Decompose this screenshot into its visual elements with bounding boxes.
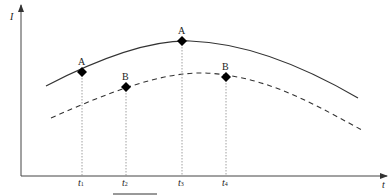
dashed-curve [51,73,362,130]
guide-lines [82,41,226,176]
diagram: I t A B A B t1 t2 t3 t4 [0,0,388,195]
point-label: B [222,62,229,72]
point-label: A [78,57,85,67]
plot-canvas [0,0,388,195]
tick-label-t3: t3 [178,178,184,189]
tick-label-t2: t2 [122,178,128,189]
tick-label-t4: t4 [222,178,228,189]
tick-label-t1: t1 [78,178,84,189]
x-axis-label: t [382,180,385,190]
point-label: B [122,72,129,82]
solid-curve [46,41,358,98]
point-label: A [178,26,185,36]
y-axis-label: I [10,12,13,22]
